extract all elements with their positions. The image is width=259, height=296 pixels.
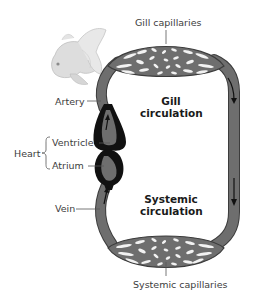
vessel-loop (93, 47, 237, 268)
goldfish-illustration (52, 29, 106, 85)
gill-circulation-line-1: Gill (140, 95, 202, 107)
systemic-capillaries-label: Systemic capillaries (133, 279, 227, 290)
gill-capillaries-label: Gill capillaries (135, 17, 201, 28)
systemic-circulation-label: Systemic circulation (140, 193, 202, 217)
systemic-circulation-line-1: Systemic (140, 193, 202, 205)
vein-label: Vein (55, 203, 75, 214)
heart-illustration (93, 104, 126, 190)
atrium-label: Atrium (52, 160, 84, 171)
gill-capillary-bed (108, 47, 224, 77)
systemic-circulation-line-2: circulation (140, 205, 202, 217)
gill-circulation-label: Gill circulation (140, 95, 202, 119)
ventricle-label: Ventricle (52, 137, 94, 148)
gill-circulation-line-2: circulation (140, 107, 202, 119)
artery-label: Artery (55, 96, 85, 107)
heart-label: Heart (14, 148, 40, 159)
